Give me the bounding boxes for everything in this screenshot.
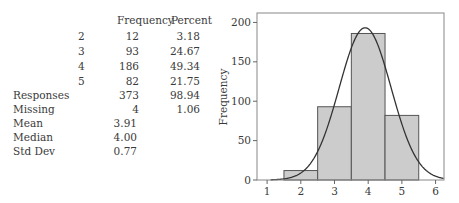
histogram-bar <box>318 107 352 180</box>
x-tick-label: 3 <box>331 185 338 197</box>
histogram-bar <box>351 33 385 180</box>
y-tick-label: 50 <box>238 134 251 146</box>
y-tick-label: 0 <box>244 174 251 186</box>
y-tick-label: 200 <box>231 16 251 28</box>
x-tick-label: 6 <box>432 185 439 197</box>
x-tick-label: 1 <box>264 185 271 197</box>
y-axis: 050100150200 <box>231 16 257 186</box>
x-tick-label: 5 <box>399 185 406 197</box>
histogram-chart: 050100150200 123456 Frequency <box>0 0 459 203</box>
y-tick-label: 150 <box>231 55 251 67</box>
x-tick-label: 2 <box>297 185 304 197</box>
x-tick-label: 4 <box>365 185 372 197</box>
y-tick-label: 100 <box>231 95 251 107</box>
x-axis: 123456 <box>264 180 439 197</box>
y-axis-label: Frequency <box>217 69 229 126</box>
histogram-bars <box>284 33 419 180</box>
